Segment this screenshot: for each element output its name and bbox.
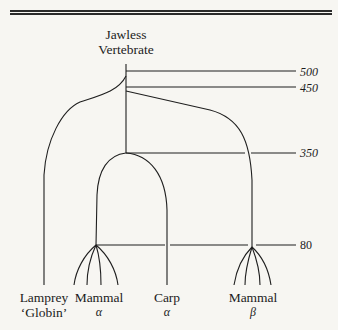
beta-fan-branch: [234, 247, 252, 285]
phylogeny-figure: Jawless Vertebrate 500 450 350 80: [0, 0, 338, 330]
tick-500: 500: [300, 66, 318, 79]
leaf-name: Mammal: [74, 290, 124, 305]
leaf-lamprey: Lamprey ‘Globin’: [14, 290, 74, 320]
beta-fan-branch: [252, 247, 271, 285]
alpha-mammal-branch: [96, 153, 126, 245]
tick-350: 350: [300, 147, 318, 160]
alpha-fan-branch: [96, 245, 118, 285]
beta-fan-branch: [252, 247, 260, 285]
lamprey-branch: [44, 76, 126, 285]
leaf-chain-symbol: α: [74, 305, 124, 320]
leaf-mammal-alpha: Mammal α: [74, 290, 124, 320]
beta-fan-branch: [245, 247, 252, 285]
tick-80: 80: [300, 239, 312, 252]
tree-diagram: [0, 0, 338, 330]
leaf-carp-alpha: Carp α: [147, 290, 187, 320]
leaf-name: Carp: [147, 290, 187, 305]
leaf-name: Mammal: [228, 290, 278, 305]
alpha-fan-branch: [96, 245, 101, 285]
leaf-chain-symbol: α: [147, 305, 187, 320]
carp-branch: [126, 153, 167, 285]
beta-branch: [126, 91, 252, 247]
leaf-mammal-beta: Mammal β: [228, 290, 278, 320]
alpha-fan-branch: [74, 245, 96, 285]
alpha-fan-branch: [87, 245, 96, 285]
tick-450: 450: [300, 82, 318, 95]
leaf-subtitle: ‘Globin’: [14, 305, 74, 320]
leaf-name: Lamprey: [14, 290, 74, 305]
leaf-chain-symbol: β: [228, 305, 278, 320]
